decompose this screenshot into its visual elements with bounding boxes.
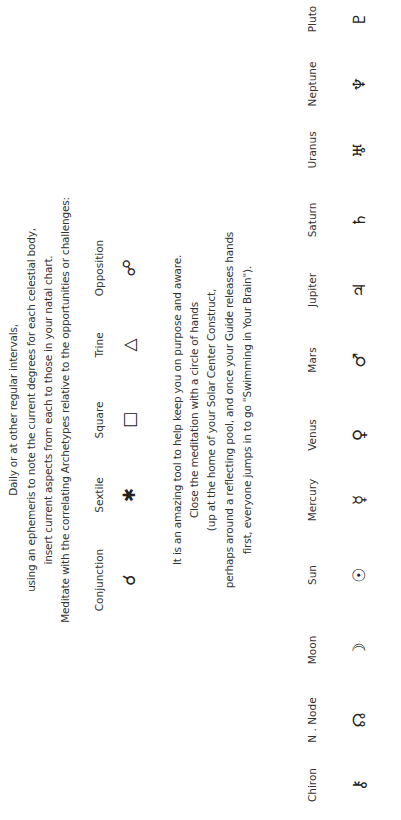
closing-line: Close the meditation with a circle of ha… (188, 0, 200, 820)
mercury-icon: ☿ (351, 495, 368, 505)
venus-icon: ♀ (351, 429, 368, 441)
body-label-north-node: N . Node (306, 697, 318, 742)
aspect-label-opposition: Opposition (93, 240, 105, 297)
chiron-icon: ⚷ (351, 779, 368, 791)
aspect-label-trine: Trine (93, 332, 105, 357)
body-label-uranus: Uranus (306, 131, 318, 168)
intro-line: Meditate with the correlating Archetypes… (59, 0, 71, 820)
aspect-label-square: Square (93, 402, 105, 439)
body-label-sun: Sun (306, 565, 318, 585)
conjunction-icon: ☌ (121, 574, 138, 585)
body-label-moon: Moon (306, 636, 318, 665)
closing-line: (up at the home of your Solar Center Con… (205, 0, 217, 820)
body-label-neptune: Neptune (306, 62, 318, 107)
mars-icon: ♂ (351, 352, 368, 367)
body-label-mercury: Mercury (306, 479, 318, 522)
uranus-icon: ♅ (351, 142, 368, 157)
pluto-icon: ♇ (351, 11, 368, 26)
moon-icon: ☽ (351, 642, 368, 657)
body-label-venus: Venus (306, 419, 318, 451)
closing-line: perhaps around a reflecting pool, and on… (223, 0, 235, 820)
intro-line: using an ephemeris to note the current d… (25, 0, 37, 820)
opposition-icon: ☍ (121, 259, 138, 276)
aspect-label-conjunction: Conjunction (93, 549, 105, 612)
neptune-icon: ♆ (351, 76, 368, 91)
sun-icon: ☉ (351, 567, 368, 582)
intro-line: Daily or at other regular intervals, (7, 0, 19, 820)
rotated-page: Daily or at other regular intervals, usi… (0, 0, 401, 820)
sextile-icon: ✱ (121, 488, 138, 502)
closing-line: first, everyone jumps in to go "Swimming… (241, 0, 253, 820)
saturn-icon: ♄ (351, 212, 368, 227)
trine-icon: △ (121, 338, 138, 351)
north-node-icon: ☊ (351, 712, 368, 727)
body-label-pluto: Pluto (306, 6, 318, 32)
body-label-jupiter: Jupiter (306, 273, 318, 307)
aspect-label-sextile: Sextile (93, 477, 105, 513)
jupiter-icon: ♃ (351, 282, 368, 297)
closing-line: It is an amazing tool to help keep you o… (171, 0, 183, 820)
body-label-chiron: Chiron (306, 768, 318, 802)
square-icon: □ (121, 412, 138, 428)
intro-line: insert current aspects from each to thos… (42, 0, 54, 820)
body-label-mars: Mars (306, 347, 318, 372)
body-label-saturn: Saturn (306, 203, 318, 238)
